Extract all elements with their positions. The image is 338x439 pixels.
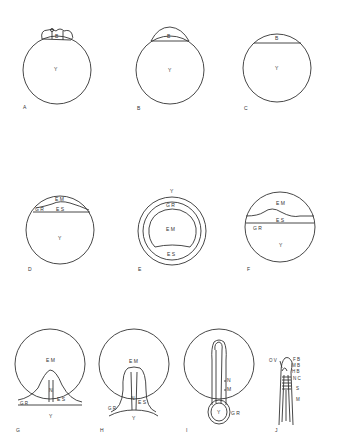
label-m: M [227,386,231,392]
embryo-development-figure: B Y A B Y B B Y C E M G R E S Y D Y G R … [0,0,338,439]
label-es: E S [276,217,285,223]
panel-g: E M N E S G R Y G [15,329,85,433]
panel-label-f: F [247,266,250,272]
label-blastodisc: B [275,35,279,41]
panel-label-a: A [23,104,27,110]
label-gr: G R [20,401,29,406]
label-yolk: Y [217,409,221,415]
label-yolk: Y [279,242,283,248]
label-em: E M [276,200,285,206]
panel-label-h: H [100,427,104,433]
panel-j: O V F B M B H B N C S M J [269,357,302,433]
label-yolk: Y [168,67,172,73]
panel-b: B Y B [136,27,204,111]
label-yolk: Y [54,66,58,72]
label-gr: G R [35,206,44,212]
panel-i: N M Y G R I [184,329,254,433]
label-s: S [296,386,299,391]
panel-label-i: I [186,427,187,433]
label-nc: N C [293,376,302,381]
panel-label-d: D [28,266,32,272]
label-n: N [49,387,53,393]
label-mb: M B [292,363,300,368]
panel-label-b: B [137,105,141,111]
panel-d: E M G R E S Y D [26,196,94,272]
label-n: N [131,395,135,401]
panel-label-j: J [275,427,278,433]
label-hb: H B [292,369,300,374]
panel-label-g: G [16,427,20,433]
label-yolk: Y [58,235,62,241]
label-gr: G R [231,410,240,416]
label-es: E S [138,399,147,405]
panel-label-c: C [244,105,248,111]
panel-a: B Y A [23,29,91,111]
label-gr: G R [166,202,175,208]
label-m: M [296,397,300,402]
label-es: E S [57,396,66,402]
label-fb: F B [293,357,300,362]
panel-label-e: E [138,266,142,272]
label-em: E M [129,358,138,364]
label-gr: G R [108,406,117,411]
label-yolk: Y [49,413,53,419]
panel-c: B Y C [243,34,311,111]
label-yolk: Y [275,65,279,71]
label-ov: O V [269,358,277,363]
label-es: E S [56,206,65,212]
label-em: E M [55,196,64,202]
panel-f: E M E S G R Y F [245,192,315,272]
label-es: E S [167,251,176,257]
label-yolk: Y [132,415,136,421]
panel-e: Y G R E M E S E [138,188,206,272]
panel-h: E M N E S G R Y H [99,329,169,433]
label-gr: G R [253,225,262,231]
label-yolk: Y [170,188,174,194]
label-em: E M [46,357,55,363]
label-n: N [227,377,231,383]
label-em: E M [166,226,175,232]
